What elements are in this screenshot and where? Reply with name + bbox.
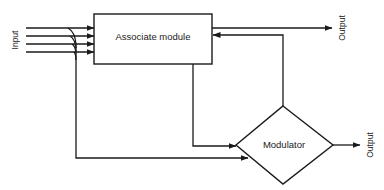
input-label: Input — [10, 30, 20, 50]
input-lines — [26, 28, 94, 60]
svg-text:Input: Input — [10, 30, 20, 50]
svg-text:Output: Output — [337, 15, 347, 41]
output-label-top: Output — [337, 15, 347, 41]
output-label-bottom: Output — [365, 132, 375, 158]
svg-text:Output: Output — [365, 132, 375, 158]
feedback-line — [213, 35, 283, 106]
modulator-node: Modulator — [236, 106, 333, 184]
associate-module-node: Associate module — [94, 14, 212, 64]
associate-to-modulator-line — [193, 64, 236, 146]
svg-text:Modulator: Modulator — [263, 139, 305, 150]
block-diagram: Input Associate module Output Modulator … — [0, 0, 384, 190]
svg-text:Associate module: Associate module — [116, 31, 191, 42]
